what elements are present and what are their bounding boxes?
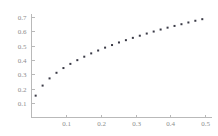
x-tick-label: 0.5 xyxy=(201,120,210,128)
y-tick-label: 0.6 xyxy=(18,28,27,36)
data-point xyxy=(194,20,196,22)
y-tick-label: 0.4 xyxy=(18,57,27,65)
x-tick-label: 0.1 xyxy=(62,120,71,128)
data-point xyxy=(201,18,203,20)
data-point-series xyxy=(35,18,204,96)
data-point xyxy=(160,29,162,31)
x-tick-label: 0.4 xyxy=(166,120,175,128)
scatter-plot-figure: 0.10.20.30.40.50.60.7 0.10.20.30.40.5 xyxy=(0,0,218,136)
data-point xyxy=(174,25,176,27)
data-point xyxy=(42,85,44,87)
data-point xyxy=(111,44,113,46)
x-tick-label: 0.3 xyxy=(132,120,141,128)
data-point xyxy=(35,95,37,97)
data-point xyxy=(90,52,92,54)
data-point xyxy=(104,47,106,49)
data-point xyxy=(187,21,189,23)
data-point xyxy=(132,37,134,39)
data-point xyxy=(49,77,51,79)
data-point xyxy=(118,41,120,43)
x-axis-group: 0.10.20.30.40.5 xyxy=(32,115,213,128)
data-point xyxy=(167,27,169,29)
data-point xyxy=(69,63,71,65)
data-point xyxy=(62,67,64,69)
y-tick-label: 0.2 xyxy=(18,86,27,94)
plot-canvas: 0.10.20.30.40.50.60.7 0.10.20.30.40.5 xyxy=(0,0,218,136)
data-point xyxy=(55,72,57,74)
data-point xyxy=(153,31,155,33)
data-point xyxy=(76,59,78,61)
y-tick-label: 0.1 xyxy=(18,100,27,108)
x-tick-label: 0.2 xyxy=(97,120,106,128)
y-tick-label: 0.5 xyxy=(18,43,27,51)
data-point xyxy=(146,33,148,35)
y-axis-group: 0.10.20.30.40.50.60.7 xyxy=(18,14,35,118)
data-point xyxy=(97,50,99,52)
y-tick-label: 0.3 xyxy=(18,71,27,79)
x-axis-ticks: 0.10.20.30.40.5 xyxy=(62,115,210,128)
y-tick-label: 0.7 xyxy=(18,14,27,22)
data-point xyxy=(139,35,141,37)
data-point xyxy=(180,23,182,25)
data-point xyxy=(83,56,85,58)
data-point xyxy=(125,39,127,41)
